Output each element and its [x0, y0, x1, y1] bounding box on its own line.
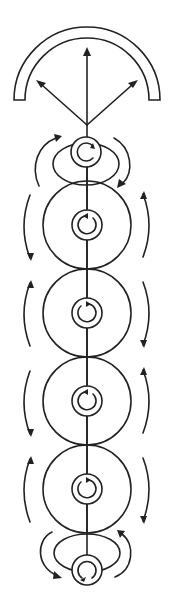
bottom-right-rotation-arrow — [115, 530, 131, 577]
disc-3-right-arrow-shaft — [143, 370, 149, 433]
disc-2-left-arrow-shaft — [24, 283, 30, 346]
disc-2-right-arrow-shaft — [143, 282, 149, 345]
top-left-rotation-arrow — [35, 134, 62, 186]
bottom-ring-outer — [72, 555, 102, 585]
emitter-arrow-up-left — [36, 80, 87, 125]
disc-4-right-arrow-shaft — [143, 458, 149, 521]
bottom-left-rotation-arrow — [40, 532, 62, 579]
disc-3-right-arrow-arrowhead — [140, 367, 147, 375]
disc-4-left-arrow — [24, 456, 34, 522]
top-ring-outer — [71, 137, 101, 167]
disc-1-left-arrow-shaft — [24, 195, 30, 258]
ring-chain-diagram — [0, 0, 169, 616]
disc-4-right-arrow — [140, 458, 149, 524]
disc-1-left-arrow — [24, 195, 34, 261]
disc-2-left-arrow-arrowhead — [27, 280, 34, 288]
disc-1-right-arrow — [140, 191, 149, 257]
disc-3 — [24, 357, 149, 445]
disc-4 — [24, 445, 149, 533]
disc-2 — [24, 269, 149, 357]
disc-1-left-arrow-arrowhead — [27, 253, 34, 261]
disc-1-right-arrow-shaft — [143, 194, 149, 257]
disc-2-left-arrow — [24, 280, 34, 346]
disc-3-left-arrow — [24, 371, 34, 437]
disc-3-left-arrow-shaft — [24, 371, 30, 434]
disc-4-right-arrow-arrowhead — [140, 516, 147, 524]
top-right-rotation-arrow — [114, 138, 130, 188]
disc-2-right-arrow-arrowhead — [140, 340, 147, 348]
disc-3-right-arrow — [140, 367, 149, 433]
disc-4-left-arrow-arrowhead — [27, 456, 34, 464]
disc-3-left-arrow-arrowhead — [27, 429, 34, 437]
disc-1 — [24, 181, 149, 269]
disc-4-left-arrow-shaft — [24, 459, 30, 522]
disc-2-right-arrow — [140, 282, 149, 348]
emitter-arrow-up — [83, 47, 91, 125]
emitter-arrow-up-right — [87, 80, 138, 125]
disc-1-right-arrow-arrowhead — [140, 191, 147, 199]
